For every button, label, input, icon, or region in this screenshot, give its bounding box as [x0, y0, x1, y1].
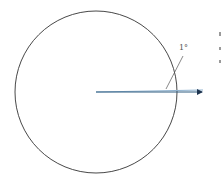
- edge-mark: [219, 32, 221, 36]
- angle-label: 1°: [179, 43, 188, 52]
- edge-mark: [219, 60, 221, 63]
- diagram-canvas: [0, 0, 222, 183]
- leader-line: [166, 56, 183, 89]
- edge-mark: [219, 47, 221, 50]
